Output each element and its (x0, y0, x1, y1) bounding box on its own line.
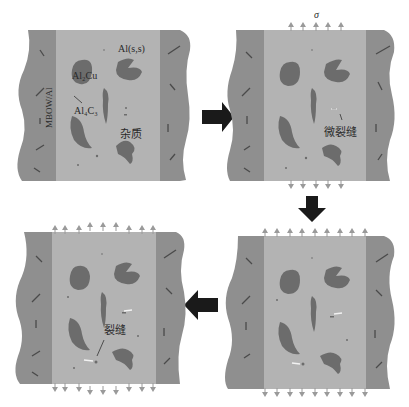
panel-micro-crack: 微裂缝 σ (227, 9, 395, 189)
panel-crack-growth (225, 228, 395, 397)
panel-crack: 裂缝 (15, 222, 185, 395)
flow-arrow-left (184, 290, 218, 320)
stress-arrows-bottom (288, 180, 344, 189)
label-crack: 裂缝 (104, 323, 126, 336)
stress-arrows-top (262, 228, 368, 237)
stress-arrows-top (288, 22, 344, 31)
panel-initial: Al(s,s) Al₂Cu Al₄C₃ 杂质 MBOW/Al (17, 30, 190, 181)
label-al4c3: Al₄C₃ (74, 105, 98, 116)
label-composite: MBOW/Al (44, 87, 54, 128)
label-impurity: 杂质 (120, 128, 142, 140)
label-stress: σ (314, 9, 320, 20)
stress-arrows-bottom (52, 383, 156, 395)
label-al2cu: Al₂Cu (72, 70, 97, 81)
flow-arrow-down (298, 196, 326, 222)
label-matrix: Al(s,s) (118, 43, 145, 55)
crack-evolution-diagram: Al(s,s) Al₂Cu Al₄C₃ 杂质 MBOW/Al (0, 0, 409, 407)
stress-arrows-bottom (262, 388, 368, 397)
label-microcrack: 微裂缝 (324, 125, 357, 138)
